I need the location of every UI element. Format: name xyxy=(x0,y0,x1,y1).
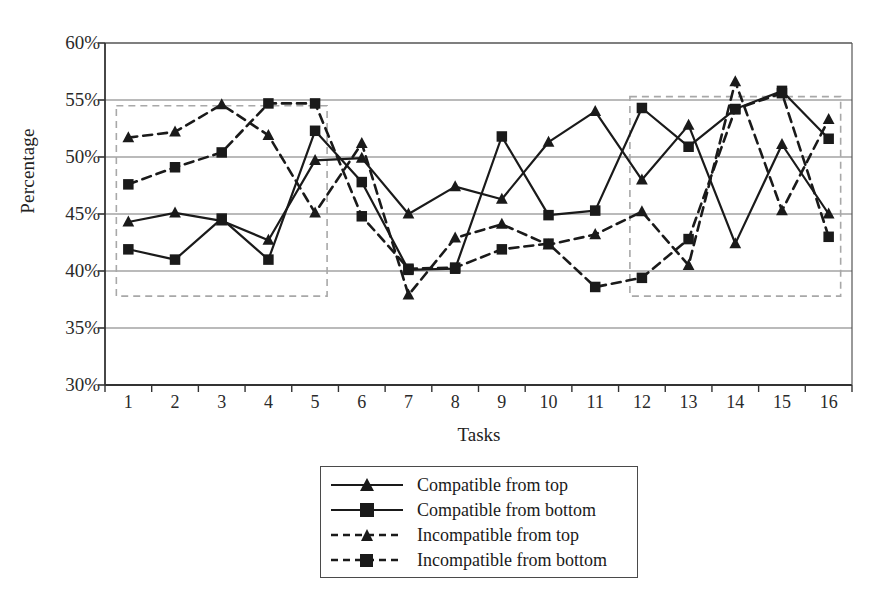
x-tick-label: 8 xyxy=(435,392,475,413)
legend-item-compatible-from-bottom: Compatible from bottom xyxy=(321,497,637,522)
legend-item-compatible-from-top: Compatible from top xyxy=(321,472,637,497)
legend-swatch-dashed-square xyxy=(329,550,405,570)
legend: Compatible from top Compatible from bott… xyxy=(320,466,638,578)
legend-label: Compatible from top xyxy=(417,476,568,494)
x-tick-label: 6 xyxy=(342,392,382,413)
legend-swatch-solid-square xyxy=(329,500,405,520)
x-tick-label: 13 xyxy=(669,392,709,413)
legend-swatch-solid-triangle xyxy=(329,475,405,495)
x-tick-label: 15 xyxy=(762,392,802,413)
legend-label: Incompatible from bottom xyxy=(417,551,607,569)
legend-label: Compatible from bottom xyxy=(417,501,596,519)
x-tick-label: 3 xyxy=(202,392,242,413)
percentage-by-task-line-chart: Percentage 60%55%50%45%40%35%30% 1234567… xyxy=(0,0,887,606)
x-tick-label: 16 xyxy=(809,392,849,413)
x-tick-label: 1 xyxy=(108,392,148,413)
x-tick-label: 2 xyxy=(155,392,195,413)
x-tick-label: 9 xyxy=(482,392,522,413)
x-tick-label: 11 xyxy=(575,392,615,413)
x-tick-label: 4 xyxy=(248,392,288,413)
x-tick-label: 14 xyxy=(715,392,755,413)
x-tick-label: 7 xyxy=(388,392,428,413)
legend-label: Incompatible from top xyxy=(417,526,579,544)
legend-item-incompatible-from-top: Incompatible from top xyxy=(321,522,637,547)
x-tick-label: 12 xyxy=(622,392,662,413)
x-tick-label: 10 xyxy=(529,392,569,413)
legend-swatch-dashed-triangle xyxy=(329,525,405,545)
legend-item-incompatible-from-bottom: Incompatible from bottom xyxy=(321,547,637,572)
x-axis-title: Tasks xyxy=(105,424,853,446)
x-tick-label: 5 xyxy=(295,392,335,413)
